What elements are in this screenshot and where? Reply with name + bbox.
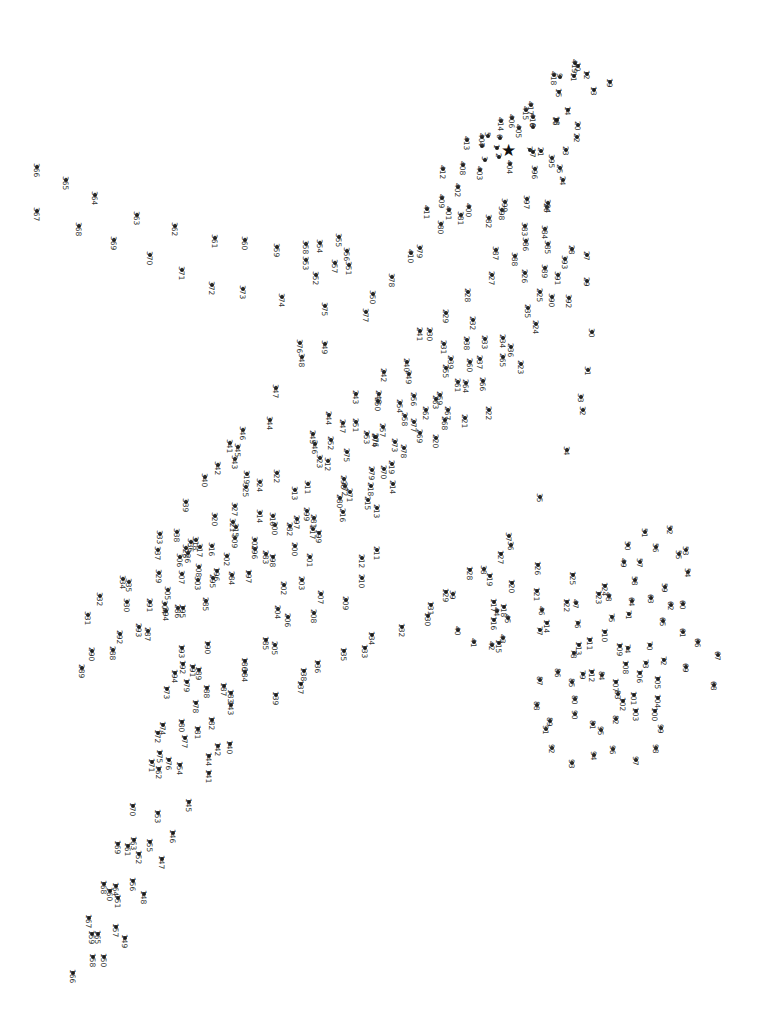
point-number: 19 xyxy=(606,78,614,88)
point-number: 73 xyxy=(642,659,650,669)
point-number: 202 xyxy=(280,581,288,595)
point-number: 152 xyxy=(135,850,143,864)
point-number: 71 xyxy=(625,610,633,620)
point-number: 289 xyxy=(78,664,86,678)
point-number: 227 xyxy=(488,271,496,285)
point-number: 279 xyxy=(368,466,376,480)
point-number: 203 xyxy=(298,576,306,590)
point-number: 323 xyxy=(316,454,324,468)
point-number: 132 xyxy=(398,623,406,637)
point-number: 295 xyxy=(209,574,217,588)
point-number: 72 xyxy=(660,656,668,666)
point-number: 290 xyxy=(88,647,96,661)
point-number: 304 xyxy=(161,600,169,614)
point-number: 27 xyxy=(583,251,591,261)
point-number: 62 xyxy=(667,601,675,611)
point-number: 403 xyxy=(476,166,484,180)
point-number: 15 xyxy=(555,88,563,98)
point-number: 372 xyxy=(208,281,216,295)
point-number: 374 xyxy=(278,293,286,307)
point-number: 128 xyxy=(466,566,474,580)
point-number: 134 xyxy=(368,631,376,645)
point-number: 285 xyxy=(202,597,210,611)
point-number: 298 xyxy=(340,475,348,489)
point-number: 35 xyxy=(536,493,544,503)
point-number: 401 xyxy=(445,206,453,220)
point-number: 363 xyxy=(133,211,141,225)
point-number: 224 xyxy=(532,320,540,334)
point-number: 6 xyxy=(496,134,504,139)
point-number: 367 xyxy=(33,207,41,221)
point-number: 284 xyxy=(228,571,236,585)
point-number: 81 xyxy=(589,720,597,730)
point-number: 380 xyxy=(437,220,445,234)
point-number: 64 xyxy=(628,597,636,607)
point-number: 387 xyxy=(492,246,500,260)
point-number: 37 xyxy=(505,532,513,542)
point-number: 324 xyxy=(256,478,264,492)
point-number: 21 xyxy=(537,147,545,157)
point-number: 320 xyxy=(211,512,219,526)
point-number: 41 xyxy=(470,638,478,648)
point-number: 171 xyxy=(148,758,156,772)
point-number: 213 xyxy=(373,504,381,518)
point-number: 409 xyxy=(438,194,446,208)
point-number: 185 xyxy=(262,636,270,650)
point-number: 157 xyxy=(112,923,120,937)
point-number: 341 xyxy=(226,439,234,453)
point-number: 65 xyxy=(659,617,667,627)
point-number: 174 xyxy=(159,721,167,735)
point-number: 307 xyxy=(178,570,186,584)
point-number: 223 xyxy=(517,360,525,374)
point-number: 359 xyxy=(273,243,281,257)
point-number: 84 xyxy=(598,671,606,681)
point-number: 260 xyxy=(466,358,474,372)
point-number: 166 xyxy=(69,969,77,983)
point-number: 249 xyxy=(405,370,413,384)
point-number: 136 xyxy=(314,659,322,673)
point-number: 98 xyxy=(652,744,660,754)
point-number: 155 xyxy=(146,838,154,852)
point-number: 389 xyxy=(541,264,549,278)
point-number: 52 xyxy=(666,525,674,535)
point-number: 256 xyxy=(410,392,418,406)
point-number: 180 xyxy=(178,718,186,732)
point-number: 20 xyxy=(574,121,582,131)
point-number: 265 xyxy=(499,353,507,367)
point-number: 25 xyxy=(556,164,564,174)
point-number: 107 xyxy=(612,678,620,692)
point-number: 273 xyxy=(391,438,399,452)
point-number: 251 xyxy=(352,418,360,432)
point-number: 335 xyxy=(125,578,133,592)
point-number: 364 xyxy=(91,191,99,205)
point-number: 67 xyxy=(714,651,722,661)
point-number: 397 xyxy=(523,195,531,209)
point-number: 365 xyxy=(62,176,70,190)
point-number: 322 xyxy=(273,469,281,483)
point-number: 344 xyxy=(266,416,274,430)
point-number: 258 xyxy=(401,412,409,426)
point-number: 55 xyxy=(675,550,683,560)
point-number: 190 xyxy=(204,640,212,654)
point-number: 383 xyxy=(521,222,529,236)
point-number: 386 xyxy=(522,237,530,251)
point-number: 115 xyxy=(495,639,503,653)
point-number: 49 xyxy=(620,558,628,568)
point-number: 13 xyxy=(590,86,598,96)
point-number: 366 xyxy=(33,163,41,177)
point-number: 148 xyxy=(140,890,148,904)
point-number: 23 xyxy=(562,146,570,156)
point-number: 149 xyxy=(121,934,129,948)
point-number: 400 xyxy=(465,203,473,217)
point-number: 353 xyxy=(302,256,310,270)
point-number: 204 xyxy=(274,605,282,619)
point-number: 131 xyxy=(427,601,435,615)
point-number: 368 xyxy=(75,222,83,236)
point-number: 234 xyxy=(499,334,507,348)
point-number: 413 xyxy=(463,136,471,150)
point-number: 417 xyxy=(527,101,535,115)
point-number: 147 xyxy=(158,855,166,869)
point-number: 197 xyxy=(245,569,253,583)
point-number: 125 xyxy=(569,571,577,585)
point-number: 261 xyxy=(454,378,462,392)
